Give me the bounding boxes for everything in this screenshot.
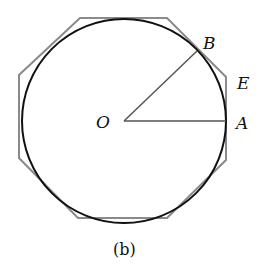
label-A: A xyxy=(234,113,248,133)
label-E: E xyxy=(236,73,250,93)
circumscribed-octagon-diagram: O A B E (b) xyxy=(0,0,262,267)
radius-OB xyxy=(124,51,197,121)
label-B: B xyxy=(202,33,216,53)
label-O: O xyxy=(96,112,110,132)
caption: (b) xyxy=(113,240,136,259)
